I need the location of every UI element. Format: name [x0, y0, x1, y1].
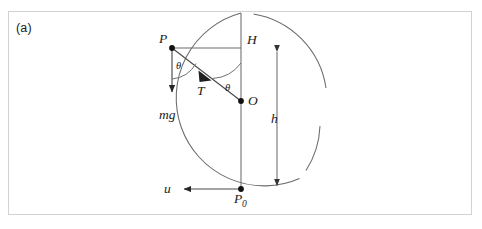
point-marker-P — [169, 45, 175, 51]
label-P0-subscript: 0 — [242, 199, 247, 209]
label-u: u — [164, 181, 171, 196]
point-marker-O — [238, 98, 244, 104]
label-theta-at-O: θ — [225, 82, 230, 93]
segment-PO — [172, 48, 241, 101]
label-O: O — [248, 93, 258, 108]
label-P0: P — [233, 191, 242, 206]
label-T: T — [197, 83, 206, 98]
angle-arc-at-O — [213, 63, 242, 79]
label-P: P — [158, 31, 167, 46]
label-h: h — [271, 111, 278, 126]
physics-diagram: P H O P 0 mg T u h θ θ — [0, 0, 482, 229]
label-theta-at-P: θ — [176, 60, 181, 71]
label-mg: mg — [159, 107, 176, 122]
figure-panel: (a) — [0, 0, 482, 229]
label-H: H — [246, 32, 258, 47]
